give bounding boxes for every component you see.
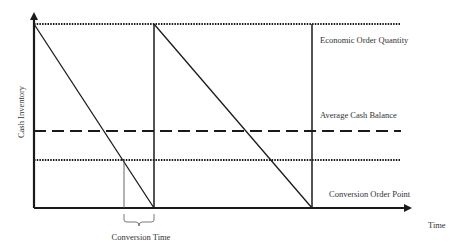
y-axis-label: Cash Inventory <box>16 85 26 138</box>
x-axis-label: Time <box>428 220 446 230</box>
cash-inventory-diagram: Cash Inventory Time Economic Order Quant… <box>0 0 468 251</box>
depletion-line-2 <box>154 24 312 208</box>
conversion-time-brace <box>124 214 154 226</box>
conversion-time-label: Conversion Time <box>112 232 171 242</box>
average-cash-label: Average Cash Balance <box>320 110 397 120</box>
eoq-label: Economic Order Quantity <box>320 35 409 45</box>
depletion-line-1 <box>34 24 154 208</box>
conversion-point-label: Conversion Order Point <box>329 189 411 199</box>
